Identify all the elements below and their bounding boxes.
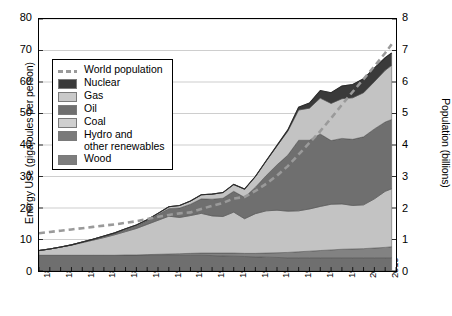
legend-item-label: Nuclear	[84, 77, 120, 89]
y-tick-left-70: 70	[2, 44, 32, 55]
y-tick-right-4: 4	[402, 139, 426, 150]
y-tick-right-6: 6	[402, 76, 426, 87]
y-tick-left-10: 10	[2, 234, 32, 245]
y-tick-right-1: 1	[402, 234, 426, 245]
legend-item-label: Oil	[84, 103, 97, 115]
legend-color-swatch	[58, 92, 77, 102]
legend-item-label: Coal	[84, 116, 106, 128]
legend-item-label: Gas	[84, 90, 103, 102]
y-tick-right-3: 3	[402, 171, 426, 182]
y-axis-label-right: Population (billions)	[440, 33, 452, 253]
legend-item-oil: Oil	[58, 103, 165, 115]
legend-color-swatch	[58, 118, 77, 128]
legend-item-gas: Gas	[58, 90, 165, 102]
legend-item-hydro-and: Hydro and other renewables	[58, 129, 165, 152]
y-tick-right-7: 7	[402, 44, 426, 55]
y-tick-left-30: 30	[2, 171, 32, 182]
legend-item-label: Wood	[84, 153, 111, 165]
legend-color-swatch	[58, 105, 77, 115]
legend-color-swatch	[58, 155, 77, 165]
legend-item-nuclear: Nuclear	[58, 77, 165, 89]
legend-item-label: Hydro and other renewables	[84, 129, 165, 152]
legend-item-world-population: World population	[58, 64, 165, 76]
legend-color-swatch	[58, 131, 77, 141]
y-tick-left-60: 60	[2, 76, 32, 87]
y-tick-left-20: 20	[2, 203, 32, 214]
y-tick-left-40: 40	[2, 139, 32, 150]
legend-item-wood: Wood	[58, 153, 165, 165]
y-tick-right-0: 0	[402, 266, 426, 277]
chart-legend: World populationNuclearGasOilCoalHydro a…	[52, 59, 173, 170]
y-tick-right-8: 8	[402, 12, 426, 23]
legend-color-swatch	[58, 79, 77, 89]
legend-item-coal: Coal	[58, 116, 165, 128]
y-tick-right-2: 2	[402, 203, 426, 214]
y-tick-left-50: 50	[2, 107, 32, 118]
y-tick-left-0: 0	[2, 266, 32, 277]
y-tick-right-5: 5	[402, 107, 426, 118]
legend-dashed-line-swatch	[58, 66, 77, 76]
y-tick-left-80: 80	[2, 12, 32, 23]
legend-item-label: World population	[84, 64, 163, 76]
